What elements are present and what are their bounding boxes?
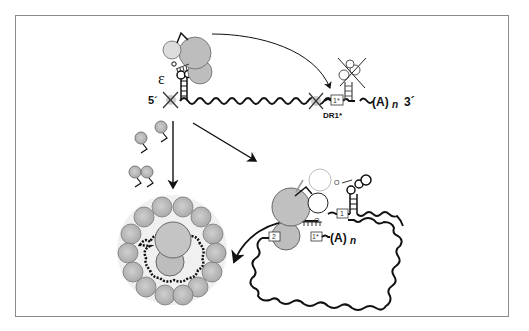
- svg-text:1*: 1*: [333, 97, 340, 104]
- translocation-arrow-icon: [212, 34, 330, 88]
- dr1-star-box: 1*: [331, 95, 343, 105]
- five-prime-label: 5´: [148, 94, 158, 106]
- right-panel: O O 1: [234, 169, 403, 310]
- svg-text:1*: 1*: [312, 233, 319, 240]
- svg-text:O: O: [314, 217, 320, 224]
- three-prime-label: 3´: [404, 95, 415, 109]
- nucleocapsid: [117, 195, 227, 305]
- hbv-replication-diagram: 5´ ε: [0, 0, 529, 331]
- svg-text:1: 1: [340, 210, 344, 217]
- polya-label-right: (A): [330, 231, 347, 245]
- polya-label: (A): [372, 95, 389, 109]
- dr2-box: 2: [269, 232, 280, 241]
- polya-subscript: n: [392, 99, 398, 110]
- x-cross-icon: [163, 92, 178, 108]
- svg-text:O: O: [334, 179, 340, 186]
- dr1-star-caption: DR1*: [323, 111, 343, 120]
- top-panel: 5´ ε: [148, 33, 415, 120]
- svg-text:2: 2: [272, 233, 276, 240]
- epsilon-label: ε: [158, 70, 165, 87]
- reverse-transcription-arrow-icon: [193, 123, 256, 161]
- x-cross-icon: [309, 93, 323, 109]
- dr1-box: 1: [337, 209, 348, 218]
- crossed-stem-loop-icon: [338, 58, 366, 100]
- dr1-star-box-right: 1*: [311, 232, 322, 241]
- polya-subscript-right: n: [350, 235, 356, 246]
- free-core-proteins: [129, 121, 167, 187]
